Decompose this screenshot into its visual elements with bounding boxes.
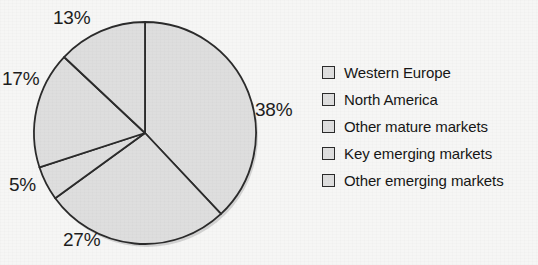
pie-chart-svg (0, 0, 300, 265)
legend-swatch-square-icon (322, 66, 335, 79)
legend-item[interactable]: North America (322, 86, 532, 113)
pie-percentage-label: 17% (2, 68, 39, 90)
legend-item-label: Other emerging markets (344, 172, 504, 189)
legend-item[interactable]: Other emerging markets (322, 167, 532, 194)
pie-percentage-label: 38% (255, 99, 292, 121)
legend-swatch-square-icon (322, 93, 335, 106)
pie-percentage-label: 27% (63, 229, 100, 251)
legend-swatch-square-icon (322, 147, 335, 160)
chart-legend: Western EuropeNorth AmericaOther mature … (322, 59, 532, 194)
cropped-title-remnant (8, 0, 228, 4)
pie-slice-group (34, 22, 256, 244)
pie-percentage-label: 13% (53, 7, 90, 29)
legend-item[interactable]: Western Europe (322, 59, 532, 86)
legend-item-label: Other mature markets (344, 118, 488, 135)
legend-item-label: North America (344, 91, 438, 108)
pie-percentage-label: 5% (9, 174, 36, 196)
legend-swatch-square-icon (322, 174, 335, 187)
pie-chart-area: 38%27%5%17%13% (0, 0, 300, 265)
legend-swatch-square-icon (322, 120, 335, 133)
legend-item-label: Key emerging markets (344, 145, 492, 162)
legend-item[interactable]: Other mature markets (322, 113, 532, 140)
legend-item[interactable]: Key emerging markets (322, 140, 532, 167)
legend-item-label: Western Europe (344, 64, 451, 81)
